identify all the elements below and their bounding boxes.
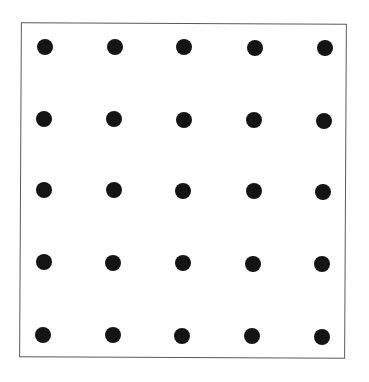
grid-dot xyxy=(176,112,192,128)
grid-dot xyxy=(317,40,333,56)
grid-dot xyxy=(316,113,332,129)
grid-dot xyxy=(315,184,331,200)
grid-dot xyxy=(175,255,191,271)
grid-dot xyxy=(107,39,123,55)
grid-dot xyxy=(176,39,192,55)
grid-dot xyxy=(36,111,52,127)
grid-dot xyxy=(106,111,122,127)
grid-dot xyxy=(246,183,262,199)
grid-dot xyxy=(314,329,330,345)
grid-dot xyxy=(314,256,330,272)
grid-dot xyxy=(244,328,260,344)
grid-dot xyxy=(245,256,261,272)
grid-dot xyxy=(106,182,122,198)
grid-dot xyxy=(35,327,51,343)
grid-dot xyxy=(247,40,263,56)
grid-dot xyxy=(105,327,121,343)
grid-dot xyxy=(36,182,52,198)
grid-dot xyxy=(175,183,191,199)
grid-dot xyxy=(37,39,53,55)
grid-dot xyxy=(246,112,262,128)
grid-dot xyxy=(105,255,121,271)
grid-dot xyxy=(174,328,190,344)
grid-dot xyxy=(36,254,52,270)
